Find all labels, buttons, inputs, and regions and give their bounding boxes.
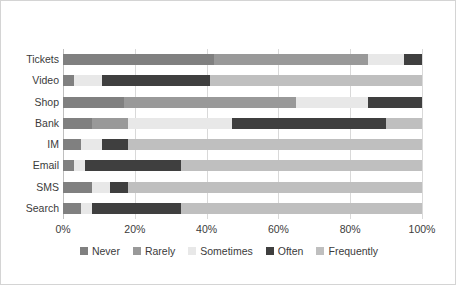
bar-segment[interactable]	[63, 139, 81, 150]
legend-swatch-icon	[266, 247, 274, 255]
bar-segment[interactable]	[368, 54, 404, 65]
legend-label: Frequently	[328, 245, 378, 257]
bar-segment[interactable]	[81, 203, 92, 214]
legend-item-never[interactable]: Never	[80, 245, 120, 257]
bar-segment[interactable]	[92, 118, 128, 129]
legend-item-sometimes[interactable]: Sometimes	[188, 245, 253, 257]
bar-segment[interactable]	[63, 97, 124, 108]
chart-container: TicketsVideoShopBankIMEmailSMSSearch 0%2…	[0, 0, 456, 285]
bar-segment[interactable]	[81, 139, 103, 150]
chart-legend: NeverRarelySometimesOftenFrequently	[1, 245, 456, 257]
bar-segment[interactable]	[102, 75, 210, 86]
bar-segment[interactable]	[232, 118, 386, 129]
bar-segment[interactable]	[181, 203, 422, 214]
plot-area	[63, 49, 422, 219]
bar-segment[interactable]	[63, 182, 92, 193]
bar-segment[interactable]	[63, 203, 81, 214]
bar-row[interactable]	[63, 54, 422, 65]
legend-label: Often	[278, 245, 304, 257]
bar-segment[interactable]	[124, 97, 296, 108]
bar-segment[interactable]	[63, 118, 92, 129]
x-tick-label: 20%	[124, 223, 145, 235]
y-axis-label-shop: Shop	[3, 97, 59, 108]
bar-row[interactable]	[63, 139, 422, 150]
legend-label: Sometimes	[200, 245, 253, 257]
legend-label: Never	[92, 245, 120, 257]
y-axis-label-email: Email	[3, 160, 59, 171]
bar-row[interactable]	[63, 182, 422, 193]
legend-swatch-icon	[316, 247, 324, 255]
y-axis-label-sms: SMS	[3, 182, 59, 193]
bar-row[interactable]	[63, 75, 422, 86]
bar-segment[interactable]	[296, 97, 368, 108]
y-axis-label-im: IM	[3, 139, 59, 150]
gridline-100	[422, 49, 423, 219]
bar-segment[interactable]	[63, 54, 214, 65]
x-axis-tick-labels: 0%20%40%60%80%100%	[63, 219, 422, 241]
bar-row[interactable]	[63, 118, 422, 129]
legend-item-rarely[interactable]: Rarely	[133, 245, 175, 257]
bar-segment[interactable]	[92, 182, 110, 193]
bar-segment[interactable]	[110, 182, 128, 193]
legend-swatch-icon	[80, 247, 88, 255]
bar-segment[interactable]	[63, 160, 74, 171]
bar-row[interactable]	[63, 203, 422, 214]
bar-segment[interactable]	[63, 75, 74, 86]
legend-item-often[interactable]: Often	[266, 245, 304, 257]
y-axis-label-tickets: Tickets	[3, 54, 59, 65]
x-tick-label: 40%	[196, 223, 217, 235]
bar-row[interactable]	[63, 97, 422, 108]
y-axis-label-search: Search	[3, 203, 59, 214]
x-tick-label: 100%	[409, 223, 436, 235]
bar-segment[interactable]	[128, 118, 232, 129]
bar-segment[interactable]	[404, 54, 422, 65]
bar-segment[interactable]	[102, 139, 127, 150]
y-axis-category-labels: TicketsVideoShopBankIMEmailSMSSearch	[1, 49, 59, 219]
legend-item-frequently[interactable]: Frequently	[316, 245, 378, 257]
bar-segment[interactable]	[128, 139, 422, 150]
bar-segment[interactable]	[128, 182, 422, 193]
x-tick-label: 60%	[268, 223, 289, 235]
bar-segment[interactable]	[210, 75, 422, 86]
x-tick-label: 80%	[340, 223, 361, 235]
bar-segment[interactable]	[74, 75, 103, 86]
y-axis-label-bank: Bank	[3, 118, 59, 129]
bar-segment[interactable]	[74, 160, 85, 171]
legend-swatch-icon	[188, 247, 196, 255]
legend-label: Rarely	[145, 245, 175, 257]
legend-swatch-icon	[133, 247, 141, 255]
bar-segment[interactable]	[85, 160, 182, 171]
bar-segment[interactable]	[386, 118, 422, 129]
bar-segment[interactable]	[92, 203, 182, 214]
y-axis-label-video: Video	[3, 75, 59, 86]
bar-row[interactable]	[63, 160, 422, 171]
bar-segment[interactable]	[181, 160, 422, 171]
x-tick-label: 0%	[55, 223, 70, 235]
bar-segment[interactable]	[214, 54, 368, 65]
bar-segment[interactable]	[368, 97, 422, 108]
